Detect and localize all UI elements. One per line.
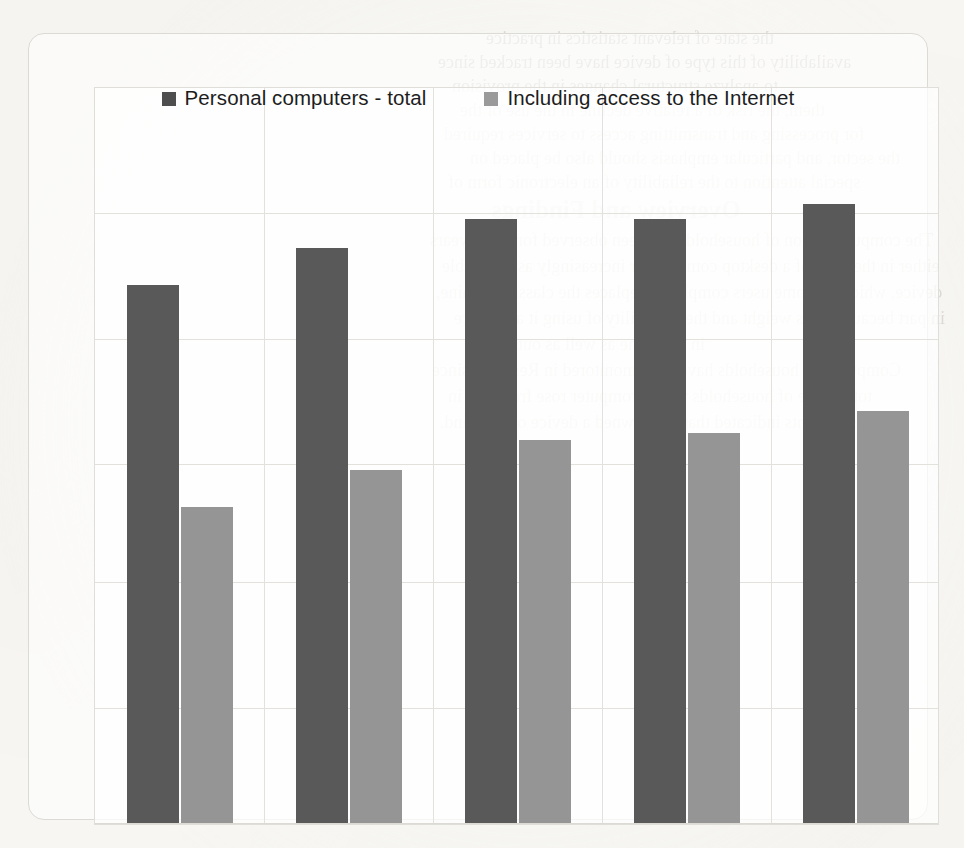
gridline-vertical [433, 88, 434, 824]
legend-swatch-icon [162, 92, 176, 106]
gridline-vertical [602, 88, 603, 824]
bar [465, 219, 517, 824]
bar [688, 433, 740, 824]
gridline-vertical [771, 88, 772, 824]
legend-label: Including access to the Internet [507, 86, 794, 110]
bar [181, 507, 233, 824]
legend-item[interactable]: Including access to the Internet [484, 86, 794, 110]
legend-item[interactable]: Personal computers - total [162, 86, 427, 110]
plot-area [94, 87, 939, 825]
bar [519, 440, 571, 824]
scanned-page: the state of relevant statistics in prac… [0, 0, 964, 848]
legend-swatch-icon [484, 92, 498, 106]
axis-baseline [95, 823, 938, 824]
bar [127, 285, 179, 824]
bar [634, 219, 686, 824]
legend-label: Personal computers - total [185, 86, 427, 110]
bar [803, 204, 855, 824]
bar [296, 248, 348, 824]
chart-frame: Personal computers - totalIncluding acce… [28, 33, 928, 820]
bar [350, 470, 402, 824]
bar [857, 411, 909, 824]
gridline-vertical [264, 88, 265, 824]
